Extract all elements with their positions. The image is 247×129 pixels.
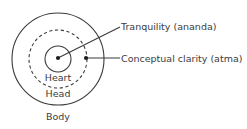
ring-label-body: Body — [38, 112, 78, 122]
ring-label-heart: Heart — [38, 73, 78, 83]
diagram-canvas — [0, 0, 247, 129]
anchor-dot-clarity — [84, 56, 88, 60]
ring-label-head: Head — [38, 89, 78, 99]
concentric-diagram: Tranquility (ananda) Conceptual clarity … — [0, 0, 247, 129]
callout-label-clarity: Conceptual clarity (atma) — [121, 54, 242, 64]
callout-label-tranquility: Tranquility (ananda) — [121, 22, 216, 32]
anchor-dot-tranquility — [56, 56, 60, 60]
